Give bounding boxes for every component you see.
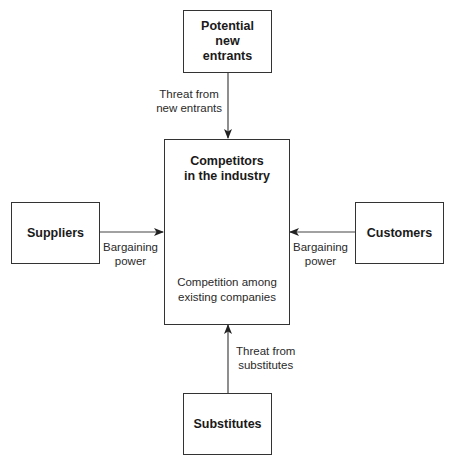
node-suppliers: Suppliers xyxy=(11,202,100,264)
node-label: Potential new entrants xyxy=(201,19,254,64)
node-customers: Customers xyxy=(355,202,444,264)
node-competitors-in-industry: Competitors in the industry Competition … xyxy=(164,139,290,325)
node-label: Substitutes xyxy=(193,417,261,432)
node-label: Customers xyxy=(367,226,432,241)
node-potential-new-entrants: Potential new entrants xyxy=(183,10,272,73)
edge-label-suppliers: Bargaining power xyxy=(103,240,158,268)
node-label: Suppliers xyxy=(27,226,84,241)
edge-label-substitutes: Threat from substitutes xyxy=(236,344,295,372)
edge-label-customers: Bargaining power xyxy=(293,240,348,268)
edge-label-new-entrants: Threat from new entrants xyxy=(156,87,222,115)
node-substitutes: Substitutes xyxy=(183,393,272,455)
node-label: Competitors in the industry xyxy=(184,154,270,184)
node-sublabel: Competition among existing companies xyxy=(165,275,289,305)
